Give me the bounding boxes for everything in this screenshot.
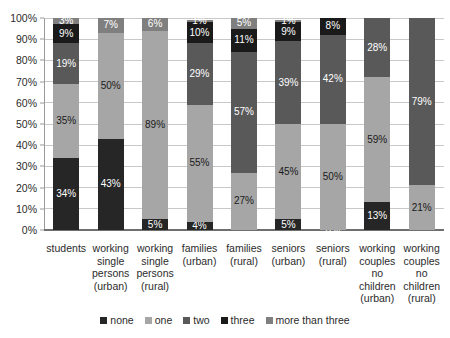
y-axis-tick-label: 40% bbox=[16, 140, 37, 151]
category-label-line: seniors bbox=[266, 242, 310, 255]
bar-segment[interactable]: 55% bbox=[187, 105, 213, 222]
bar-segment-label: 5% bbox=[237, 18, 251, 28]
bar-segment[interactable]: 59% bbox=[364, 77, 390, 202]
bar-segment[interactable]: 50% bbox=[98, 33, 124, 139]
bar-segment[interactable]: 43% bbox=[98, 139, 124, 230]
bar-segment[interactable]: 39% bbox=[275, 41, 301, 124]
x-axis-category-labels: studentsworkingsinglepersons(urban)worki… bbox=[44, 238, 444, 310]
bar-segment-label: 29% bbox=[190, 69, 210, 79]
bar-segment-label: 5% bbox=[281, 220, 295, 230]
bar-column[interactable]: 5%89%6% bbox=[133, 18, 177, 230]
y-axis-tick-label: 50% bbox=[16, 119, 37, 130]
bar-stack[interactable]: 4%55%29%10%1% bbox=[187, 18, 213, 230]
bar-segment-label: 89% bbox=[145, 120, 165, 130]
bar-column[interactable]: 43%50%7% bbox=[88, 18, 132, 230]
bar-column[interactable]: 21%79% bbox=[400, 18, 444, 230]
stacked-bar-chart: 0%10%20%30%40%50%60%70%80%90%100% 34%35%… bbox=[0, 0, 450, 338]
bar-segment[interactable]: 7% bbox=[98, 18, 124, 33]
bar-segment[interactable]: 5% bbox=[275, 219, 301, 230]
bar-segment-label: 43% bbox=[101, 179, 121, 189]
bar-segment[interactable]: 9% bbox=[53, 24, 79, 43]
bar-stack[interactable]: 5%45%39%9%1% bbox=[275, 18, 301, 230]
bar-segment[interactable]: 79% bbox=[409, 18, 435, 185]
y-axis: 0%10%20%30%40%50%60%70%80%90%100% bbox=[0, 18, 40, 230]
bar-segment[interactable]: 89% bbox=[142, 31, 168, 220]
legend-item[interactable]: none bbox=[100, 315, 133, 326]
bar-column[interactable]: 34%35%19%9%3% bbox=[44, 18, 88, 230]
bar-segment[interactable]: 21% bbox=[409, 185, 435, 230]
bar-stack[interactable]: 5%89%6% bbox=[142, 18, 168, 230]
bar-column[interactable]: 4%55%29%10%1% bbox=[177, 18, 221, 230]
bar-stack[interactable]: 13%59%28% bbox=[364, 18, 390, 230]
bar-segment[interactable]: 50% bbox=[320, 124, 346, 230]
legend-label: two bbox=[193, 315, 209, 326]
category-label-line: (urban) bbox=[355, 292, 399, 305]
y-axis-tick-label: 60% bbox=[16, 98, 37, 109]
x-axis-category-label: workingcouplesnochildren(rural) bbox=[400, 238, 444, 305]
bar-segment[interactable]: 4% bbox=[187, 222, 213, 230]
category-label-line: persons bbox=[133, 267, 177, 280]
legend-item[interactable]: one bbox=[145, 315, 173, 326]
category-label-line: persons bbox=[88, 267, 132, 280]
bar-stack[interactable]: 0%50%42%8% bbox=[320, 18, 346, 230]
bar-segment[interactable]: 13% bbox=[364, 202, 390, 230]
bar-stack[interactable]: 43%50%7% bbox=[98, 18, 124, 230]
bar-segment[interactable]: 5% bbox=[142, 219, 168, 230]
bar-segment-label: 27% bbox=[234, 196, 254, 206]
legend-swatch-icon bbox=[221, 317, 228, 324]
legend-swatch-icon bbox=[145, 317, 152, 324]
bar-segment[interactable]: 6% bbox=[142, 18, 168, 31]
category-label-line: (urban) bbox=[266, 255, 310, 268]
y-axis-tick-label: 20% bbox=[16, 182, 37, 193]
bar-column[interactable]: 5%45%39%9%1% bbox=[266, 18, 310, 230]
bar-segment[interactable]: 11% bbox=[231, 29, 257, 52]
legend-swatch-icon bbox=[266, 317, 273, 324]
bar-stack[interactable]: 21%79% bbox=[409, 18, 435, 230]
y-axis-tick-label: 0% bbox=[22, 225, 37, 236]
x-axis-category-label: students bbox=[44, 238, 88, 255]
bar-column[interactable]: 27%57%11%5% bbox=[222, 18, 266, 230]
bar-column[interactable]: 13%59%28% bbox=[355, 18, 399, 230]
bar-segment[interactable]: 3% bbox=[53, 18, 79, 24]
bar-segment[interactable]: 9% bbox=[275, 22, 301, 41]
category-label-line: seniors bbox=[311, 242, 355, 255]
bar-segment-label: 11% bbox=[234, 35, 253, 45]
legend-item[interactable]: three bbox=[221, 315, 255, 326]
bar-segment[interactable]: 1% bbox=[275, 20, 301, 22]
legend-item[interactable]: two bbox=[183, 315, 209, 326]
category-label-line: (rural) bbox=[400, 292, 444, 305]
y-axis-tick-label: 80% bbox=[16, 55, 37, 66]
bar-segment-label: 28% bbox=[367, 43, 387, 53]
bar-segment[interactable]: 27% bbox=[231, 173, 257, 230]
bar-segment[interactable]: 8% bbox=[320, 18, 346, 35]
bar-column[interactable]: 0%50%42%8% bbox=[311, 18, 355, 230]
bar-stack[interactable]: 27%57%11%5% bbox=[231, 18, 257, 230]
bar-segment[interactable]: 5% bbox=[231, 18, 257, 29]
bar-segment[interactable]: 45% bbox=[275, 124, 301, 219]
bar-segment-label: 21% bbox=[412, 203, 432, 213]
legend-swatch-icon bbox=[100, 317, 107, 324]
category-label-line: working bbox=[400, 242, 444, 255]
category-label-line: (urban) bbox=[88, 280, 132, 293]
bar-segment[interactable]: 42% bbox=[320, 35, 346, 124]
bar-segment-label: 50% bbox=[323, 172, 343, 182]
bar-segment[interactable]: 1% bbox=[187, 20, 213, 22]
bar-segment-label: 42% bbox=[323, 74, 343, 84]
bar-segment-label: 19% bbox=[56, 59, 76, 69]
bar-segment[interactable]: 28% bbox=[364, 18, 390, 77]
bar-segment-label: 50% bbox=[101, 81, 121, 91]
bar-stack[interactable]: 34%35%19%9%3% bbox=[53, 18, 79, 230]
bar-segment[interactable]: 34% bbox=[53, 158, 79, 230]
legend-label: none bbox=[110, 315, 133, 326]
y-axis-tick-label: 100% bbox=[10, 13, 37, 24]
plot-area: 0%10%20%30%40%50%60%70%80%90%100% 34%35%… bbox=[0, 0, 450, 238]
bar-segment[interactable]: 19% bbox=[53, 43, 79, 83]
bar-segment[interactable]: 57% bbox=[231, 52, 257, 173]
category-label-line: children bbox=[355, 280, 399, 293]
bar-segment[interactable]: 35% bbox=[53, 84, 79, 158]
bar-segment[interactable]: 29% bbox=[187, 43, 213, 104]
x-axis-category-label: seniors(rural) bbox=[311, 238, 355, 267]
legend-item[interactable]: more than three bbox=[266, 315, 350, 326]
bar-segment[interactable]: 10% bbox=[187, 22, 213, 43]
category-label-line: couples bbox=[355, 255, 399, 268]
